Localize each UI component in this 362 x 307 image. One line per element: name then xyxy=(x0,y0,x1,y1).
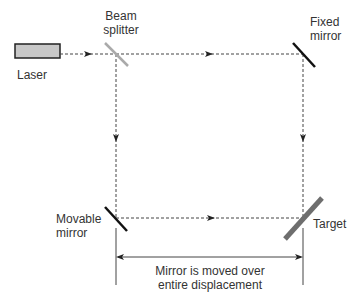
displacement-label-line1: Mirror is moved over xyxy=(120,264,300,278)
displacement-label-line2: entire displacement xyxy=(120,278,300,292)
fixed-mirror-icon xyxy=(293,43,315,67)
beam-direction-arrows xyxy=(84,51,306,221)
beam-path xyxy=(60,54,303,218)
beam-splitter-label-line2: splitter xyxy=(96,23,146,37)
beam-splitter-label: Beam splitter xyxy=(96,9,146,37)
laser-icon xyxy=(15,44,60,58)
fixed-mirror-label-line1: Fixed xyxy=(310,15,341,29)
interferometer-diagram xyxy=(0,0,362,307)
fixed-mirror-label-line2: mirror xyxy=(310,29,341,43)
beam-splitter-icon xyxy=(105,43,128,66)
target-label: Target xyxy=(313,217,346,231)
movable-mirror-label: Movable mirror xyxy=(56,212,101,240)
beam-splitter-label-line1: Beam xyxy=(96,9,146,23)
fixed-mirror-label: Fixed mirror xyxy=(310,15,341,43)
movable-mirror-label-line2: mirror xyxy=(56,226,101,240)
movable-mirror-label-line1: Movable xyxy=(56,212,101,226)
laser-label: Laser xyxy=(17,68,47,82)
displacement-label: Mirror is moved over entire displacement xyxy=(120,264,300,292)
